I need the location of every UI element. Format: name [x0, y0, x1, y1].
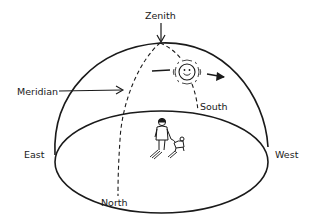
east-label: East — [24, 150, 45, 160]
north-label: North — [101, 198, 128, 208]
celestial-sphere-diagram: Zenith Meridian South East West North — [0, 0, 315, 218]
observer-with-dog-icon — [150, 118, 184, 159]
meridian-line — [118, 43, 160, 196]
meridian-arrow-icon — [59, 86, 123, 94]
zenith-arrow-icon — [157, 23, 165, 42]
meridian-back-line — [160, 43, 182, 60]
zenith-label: Zenith — [145, 11, 176, 21]
sun-icon — [173, 60, 201, 84]
meridian-label: Meridian — [17, 87, 58, 97]
west-label: West — [275, 150, 298, 160]
diagram-drawing — [0, 0, 315, 218]
meridian-south-line — [192, 84, 198, 111]
south-label: South — [200, 102, 228, 112]
